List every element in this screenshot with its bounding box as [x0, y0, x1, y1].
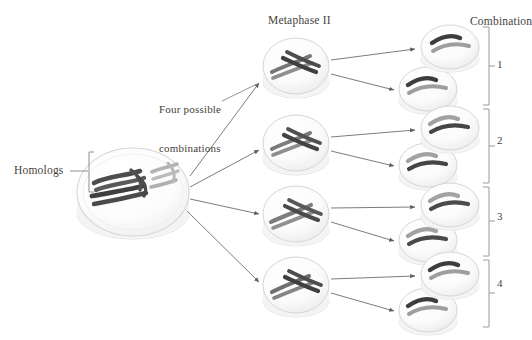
combination-number-2: 2: [497, 134, 503, 146]
arrow-metaphase-3-to-gamete-6: [331, 222, 394, 241]
gamete-cell-5: [421, 183, 479, 230]
arrow-metaphase-4-to-gamete-7: [331, 276, 415, 279]
diagram-canvas: [0, 0, 532, 340]
combination-brackets: [483, 27, 495, 327]
label-combination: Combination: [470, 15, 532, 29]
metaphase-cell-3: [263, 186, 329, 246]
combination-number-3: 3: [497, 210, 503, 222]
bracket-combination-1: [483, 27, 489, 105]
label-metaphase-two: Metaphase II: [268, 14, 331, 28]
combination-number-1: 1: [497, 58, 503, 70]
label-four-possible-line1: Four possible: [159, 103, 221, 116]
arrow-metaphase-4-to-gamete-8: [331, 293, 394, 311]
gamete-cell-1: [421, 25, 479, 72]
arrow-metaphase-3-to-gamete-5: [331, 207, 415, 208]
bracket-combination-3: [483, 187, 489, 256]
arrow-metaphase-2-to-gamete-4: [331, 151, 394, 166]
meiosis-independent-assortment-diagram: Homologs Four possible combinations Meta…: [0, 0, 532, 340]
bracket-combination-4: [483, 260, 489, 327]
arrow-metaphase-1-to-gamete-1: [331, 49, 415, 60]
arrow-parent-to-metaphase-4: [187, 211, 259, 282]
arrow-metaphase-1-to-gamete-2: [331, 74, 394, 90]
gamete-cell-3: [421, 106, 479, 153]
label-four-possible-combinations: Four possible combinations: [159, 77, 221, 181]
metaphase-cell-4: [263, 257, 329, 317]
bracket-combination-2: [483, 109, 489, 183]
metaphase-cell-1: [263, 38, 329, 98]
label-homologs: Homologs: [14, 164, 64, 178]
combination-number-4: 4: [497, 277, 503, 289]
label-four-possible-line2: combinations: [159, 142, 221, 155]
arrow-parent-to-metaphase-3: [190, 199, 259, 214]
arrow-metaphase-2-to-gamete-3: [331, 130, 415, 137]
metaphase-cell-2: [263, 115, 329, 175]
gamete-cell-7: [421, 252, 479, 299]
